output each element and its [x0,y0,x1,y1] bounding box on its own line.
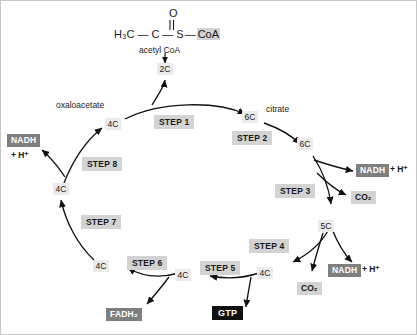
product-nadh-step4: NADH [328,264,361,277]
product-fadh2-step6: FADH₂ [106,308,142,321]
product-hplus-step4: + H⁺ [362,265,380,274]
node-4c-step6-product: 4C [93,260,109,272]
step-7-label: STEP 7 [81,215,121,229]
product-co2-step4: CO₂ [297,282,322,295]
carbonyl-oxygen-label: O [169,7,178,19]
node-6c-step2-product: 6C [297,138,313,150]
sulfur-atom: S [176,28,183,40]
node-4c-step4-product: 4C [257,267,273,279]
node-4c-step7-product: 4C [53,183,69,195]
citrate-label: citrate [266,105,289,114]
node-4c-oxaloacetate: 4C [105,118,121,130]
node-4c-step5-product: 4C [175,269,191,281]
step-6-label: STEP 6 [127,256,167,270]
step-5-label: STEP 5 [200,261,240,275]
acetyl-coa-formula: H₃C—C—S—CoA [114,28,220,40]
product-co2-step3: CO₂ [351,191,376,204]
node-5c: 5C [318,220,334,232]
product-hplus-step3: + H⁺ [390,165,408,174]
node-2c: 2C [157,63,173,75]
product-hplus-step8: + H⁺ [11,151,29,160]
step-1-label: STEP 1 [154,115,194,129]
product-gtp-step5: GTP [212,306,243,320]
cycle-arrows [1,1,417,335]
node-6c-citrate: 6C [242,111,258,123]
step-4-label: STEP 4 [249,239,289,253]
step-8-label: STEP 8 [82,157,122,171]
acetyl-coa-caption: acetyl CoA [139,46,180,55]
product-nadh-step8: NADH [7,134,40,147]
methyl-group: H₃C [114,28,134,40]
coa-label: CoA [197,28,220,40]
step-2-label: STEP 2 [232,131,272,145]
oxaloacetate-label: oxaloacetate [56,101,104,110]
product-nadh-step3: NADH [356,164,389,177]
krebs-cycle-diagram: O H₃C—C—S—CoA acetyl CoA 2C oxaloacetate… [0,0,417,335]
step-3-label: STEP 3 [275,184,315,198]
